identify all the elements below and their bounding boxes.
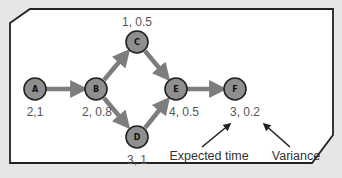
node-e-value: 4, 0.5 [169, 105, 199, 119]
node-c-letter: C [134, 38, 140, 47]
network-diagram: A 2,1 B 2, 0.8 C 1, 0.5 D 3, 1 E 4, 0.5 … [0, 0, 342, 178]
node-c-value: 1, 0.5 [122, 15, 152, 29]
node-b-value: 2, 0.8 [82, 105, 112, 119]
node-e-letter: E [173, 85, 178, 94]
node-d-letter: D [134, 133, 141, 142]
expected-time-label: Expected time [169, 149, 248, 163]
node-d-value: 3, 1 [127, 153, 147, 167]
node-b-letter: B [93, 85, 99, 94]
node-a-value: 2,1 [27, 105, 44, 119]
node-a-letter: A [32, 85, 39, 94]
node-f-letter: F [232, 85, 237, 94]
variance-label: Variance [272, 149, 320, 163]
node-f-value: 3, 0.2 [230, 105, 260, 119]
